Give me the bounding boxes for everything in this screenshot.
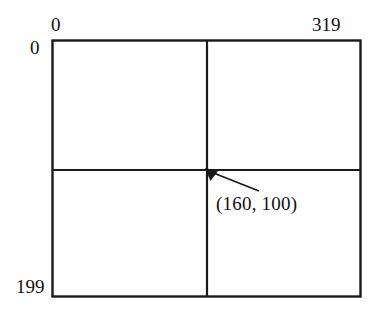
axis-label-y-min: 0 [30, 38, 40, 57]
axis-label-x-min: 0 [51, 15, 61, 34]
diagram-canvas [0, 0, 381, 316]
annotation-leader-line [211, 172, 259, 191]
axis-label-x-max: 319 [312, 15, 341, 34]
coordinate-system-figure: 0 319 0 199 (160, 100) [0, 0, 381, 316]
point-coordinate-annotation: (160, 100) [216, 194, 297, 213]
axis-label-y-max: 199 [16, 277, 45, 296]
